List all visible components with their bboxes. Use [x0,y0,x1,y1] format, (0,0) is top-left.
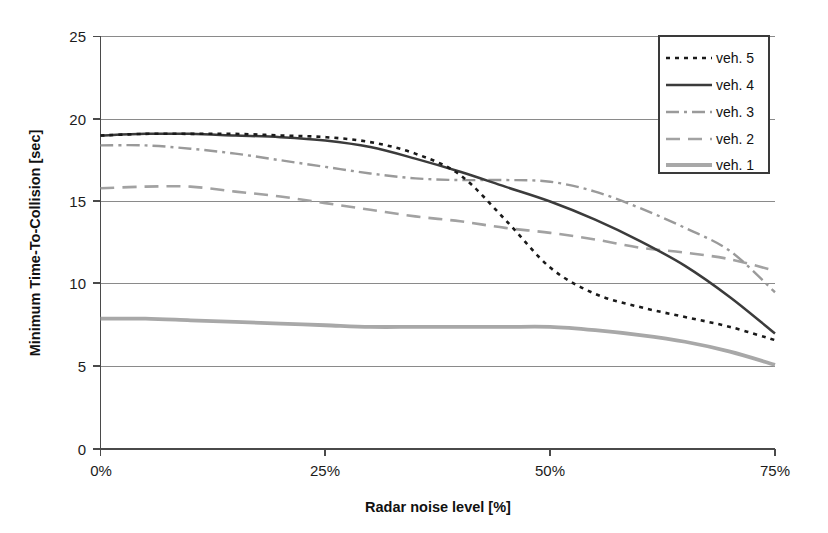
x-tick-label-75: 75% [760,462,790,479]
legend-label-veh-5: veh. 5 [716,50,754,66]
x-tick-label-25: 25% [310,462,340,479]
chart-legend[interactable]: veh. 5 veh. 4 veh. 3 veh. 2 veh. 1 [659,36,769,173]
y-tick-label-10: 10 [69,275,86,292]
y-tick-label-0: 0 [78,441,86,458]
legend-label-veh-4: veh. 4 [716,77,754,93]
chart-figure: 25 20 15 10 5 0 0% 25% 50% 75% Radar noi… [0,0,828,533]
y-axis-title: Minimum Time-To-Collision [sec] [27,130,43,357]
legend-label-veh-3: veh. 3 [716,104,754,120]
legend-label-veh-2: veh. 2 [716,131,754,147]
y-tick-label-5: 5 [78,358,86,375]
y-tick-label-20: 20 [69,111,86,128]
y-tick-label-15: 15 [69,193,86,210]
x-tick-label-50: 50% [535,462,565,479]
line-chart-svg: 25 20 15 10 5 0 0% 25% 50% 75% Radar noi… [0,0,828,533]
y-tick-label-25: 25 [69,28,86,45]
x-tick-label-0: 0% [90,462,112,479]
legend-label-veh-1: veh. 1 [716,157,754,173]
x-axis-title: Radar noise level [%] [365,499,511,515]
